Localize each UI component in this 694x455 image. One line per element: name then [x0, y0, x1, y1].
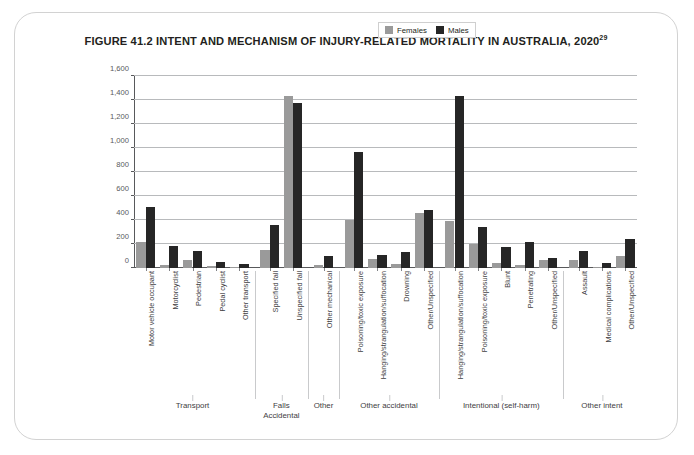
group-tick-mark: [192, 395, 193, 401]
group-label-text: Falls: [273, 401, 290, 410]
y-axis-tick-label: 1,000: [110, 135, 129, 144]
group-tick-mark: [602, 395, 603, 401]
bar-males: [216, 262, 225, 268]
y-axis-tick-label: 1,400: [110, 87, 129, 96]
group-tick-mark: [501, 395, 502, 401]
y-axis-tick-label: 1,200: [110, 111, 129, 120]
group-label: Other accidental: [360, 401, 417, 411]
bar-males: [478, 227, 487, 268]
bar-males: [579, 251, 588, 268]
bar-females: [616, 256, 625, 268]
bar-males: [455, 96, 464, 268]
bar-females: [345, 220, 354, 268]
group-label: Intentional (self-harm): [463, 401, 540, 411]
bar-females: [260, 250, 269, 268]
group-label: Other: [314, 401, 334, 411]
group-tick-mark: [389, 395, 390, 401]
bar-males: [525, 242, 534, 268]
group-label-text: Transport: [176, 401, 209, 410]
legend-label: Females: [397, 26, 427, 35]
y-axis-tick-label: 200: [116, 231, 129, 240]
group-label-text: Other: [314, 401, 334, 410]
bar-males: [270, 225, 279, 268]
figure-title-superscript: 29: [599, 34, 607, 41]
group-separator: [563, 271, 564, 399]
group-separator: [439, 271, 440, 399]
legend-entry: Males: [436, 26, 469, 35]
bar-females: [230, 267, 239, 268]
bar-females: [569, 260, 578, 268]
chart-legend: FemalesMales: [378, 22, 476, 38]
bar-males: [424, 210, 433, 268]
bar-males: [602, 263, 611, 268]
figure-title: FIGURE 41.2 INTENT AND MECHANISM OF INJU…: [15, 35, 677, 47]
legend-swatch: [385, 26, 393, 34]
y-axis-tick-label: 600: [116, 183, 129, 192]
bar-females: [469, 244, 478, 268]
bar-females: [391, 264, 400, 268]
bar-males: [377, 255, 386, 268]
group-label-text: Other intent: [581, 401, 622, 410]
group-separator: [255, 271, 256, 399]
bar-females: [415, 213, 424, 268]
figure-title-text: FIGURE 41.2 INTENT AND MECHANISM OF INJU…: [85, 35, 600, 47]
bar-females: [160, 265, 169, 268]
bar-females: [136, 242, 145, 268]
group-tick-mark: [281, 395, 282, 401]
y-axis-tick-label: 400: [116, 207, 129, 216]
bar-females: [314, 265, 323, 268]
bar-males: [501, 247, 510, 268]
chart-group-labels: TransportFallsAccidentalOtherOther accid…: [134, 401, 637, 431]
figure-card: FIGURE 41.2 INTENT AND MECHANISM OF INJU…: [14, 12, 678, 440]
bar-males: [146, 207, 155, 268]
bar-females: [539, 260, 548, 268]
legend-swatch: [436, 26, 444, 34]
y-axis-tick-label: 1,600: [110, 63, 129, 72]
y-axis-tick-label: 800: [116, 159, 129, 168]
group-label-text: Intentional (self-harm): [463, 401, 540, 410]
group-label: Other intent: [581, 401, 622, 411]
y-axis-tick-label: 0: [125, 255, 129, 264]
bar-males: [293, 103, 302, 268]
bar-females: [515, 265, 524, 268]
bar-males: [401, 252, 410, 268]
group-label-sublabel: Accidental: [263, 411, 299, 421]
bar-males: [193, 251, 202, 268]
bar-females: [445, 221, 454, 268]
bar-females: [284, 96, 293, 268]
bar-females: [207, 266, 216, 268]
bar-females: [492, 263, 501, 268]
group-label-text: Other accidental: [360, 401, 417, 410]
bar-females: [368, 259, 377, 268]
bar-males: [625, 239, 634, 268]
bar-males: [354, 152, 363, 268]
bar-males: [169, 246, 178, 268]
group-separator: [308, 271, 309, 399]
legend-entry: Females: [385, 26, 427, 35]
group-tick-mark: [323, 395, 324, 401]
group-label: FallsAccidental: [263, 401, 299, 421]
bar-males: [324, 256, 333, 268]
chart-bars: [134, 76, 637, 268]
chart-group-separators: [134, 271, 637, 399]
bar-females: [183, 260, 192, 268]
legend-label: Males: [448, 26, 469, 35]
chart-plot-area: 02004006008001,0001,2001,4001,600: [134, 76, 637, 268]
group-separator: [339, 271, 340, 399]
bar-females: [593, 267, 602, 268]
bar-males: [239, 264, 248, 268]
group-label: Transport: [176, 401, 209, 411]
bar-males: [548, 258, 557, 268]
